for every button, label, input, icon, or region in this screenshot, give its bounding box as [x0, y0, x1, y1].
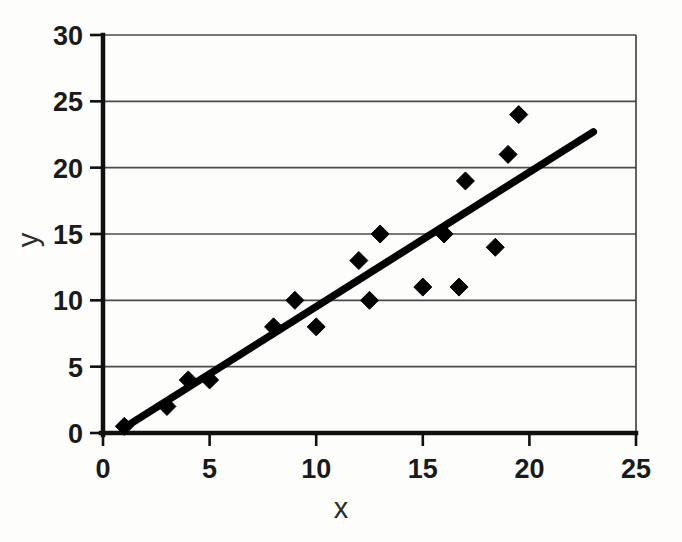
x-tick-label-0: 0 — [95, 454, 110, 484]
x-tick-label-25: 25 — [621, 454, 651, 484]
y-axis-title: y — [12, 232, 44, 247]
scatter-chart: 0510152025 051015202530 x y — [0, 0, 682, 542]
y-tick-label-30: 30 — [53, 21, 83, 51]
y-tick-label-15: 15 — [53, 220, 83, 250]
chart-canvas: 0510152025 051015202530 x y — [0, 0, 682, 542]
x-tick-label-5: 5 — [202, 454, 217, 484]
y-tick-label-10: 10 — [53, 286, 83, 316]
y-tick-label-25: 25 — [53, 87, 83, 117]
y-tick-label-5: 5 — [68, 353, 83, 383]
x-tick-label-15: 15 — [408, 454, 438, 484]
y-tick-label-20: 20 — [53, 154, 83, 184]
x-tick-label-10: 10 — [301, 454, 331, 484]
y-tick-label-0: 0 — [68, 419, 83, 449]
x-tick-label-20: 20 — [514, 454, 544, 484]
x-axis-title: x — [334, 492, 349, 524]
